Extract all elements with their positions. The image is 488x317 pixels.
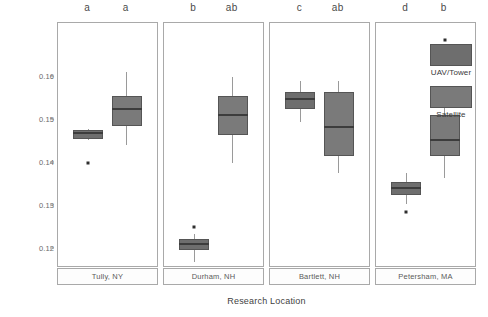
boxplot-figure: Albedo (0-1) 0.120.130.140.150.16 Tully,… (0, 0, 488, 317)
panel-plot-area (269, 22, 370, 267)
legend-label: UAV/Tower (418, 68, 484, 77)
legend: UAV/TowerSatellite (418, 44, 484, 128)
significance-letter: ab (332, 2, 344, 13)
panel-plot-area (163, 22, 264, 267)
y-tick-mark (50, 118, 54, 119)
panel-durham-nh: Durham, NH (163, 22, 264, 290)
panel-strip-label: Tully, NY (57, 268, 158, 285)
y-tick-mark (50, 204, 54, 205)
panel-strip-text: Tully, NY (92, 272, 123, 281)
panel-tully-ny: Tully, NY (57, 22, 158, 290)
legend-swatch (430, 86, 472, 108)
boxplot-satellite (58, 23, 157, 266)
legend-label: Satellite (418, 110, 484, 119)
x-axis-title: Research Location (57, 296, 476, 306)
significance-letter: b (190, 2, 196, 13)
boxplot-median (430, 139, 460, 141)
boxplot-median (112, 108, 142, 110)
boxplot-box (324, 92, 354, 156)
panel-container: Tully, NYDurham, NHBartlett, NHPetersham… (57, 22, 476, 290)
significance-letter: c (297, 2, 302, 13)
panel-strip-label: Petersham, MA (375, 268, 476, 285)
y-axis-ticks: 0.120.130.140.150.16 (26, 0, 54, 317)
significance-letter: b (441, 2, 447, 13)
boxplot-satellite (164, 23, 263, 266)
panel-strip-text: Durham, NH (192, 272, 236, 281)
y-tick-mark (50, 161, 54, 162)
significance-letter: a (123, 2, 129, 13)
panel-bartlett-nh: Bartlett, NH (269, 22, 370, 290)
panel-strip-text: Bartlett, NH (299, 272, 340, 281)
legend-swatch (430, 44, 472, 66)
significance-letter: ab (226, 2, 238, 13)
significance-letter: a (84, 2, 90, 13)
legend-item[interactable]: UAV/Tower (418, 44, 484, 77)
y-tick-mark (50, 247, 54, 248)
boxplot-box (112, 96, 142, 126)
boxplot-outlier-point (443, 39, 446, 42)
panel-plot-area (57, 22, 158, 267)
panel-strip-label: Durham, NH (163, 268, 264, 285)
y-tick-mark (50, 75, 54, 76)
boxplot-median (324, 126, 354, 128)
panel-strip-text: Petersham, MA (398, 272, 452, 281)
boxplot-median (218, 114, 248, 116)
panel-strip-label: Bartlett, NH (269, 268, 370, 285)
boxplot-satellite (270, 23, 369, 266)
legend-item[interactable]: Satellite (418, 86, 484, 119)
significance-letter: d (402, 2, 408, 13)
